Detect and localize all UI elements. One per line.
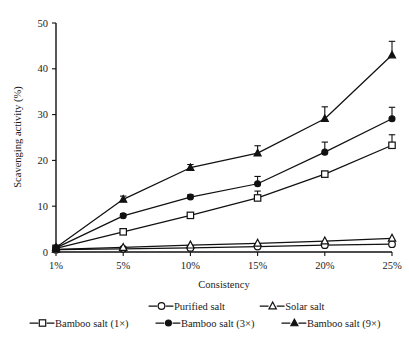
data-point-marker: [254, 149, 261, 156]
legend-label: Purified salt: [174, 301, 225, 312]
y-tick-label: 50: [38, 18, 49, 29]
y-tick-label: 30: [38, 109, 49, 120]
series-polyline: [56, 55, 392, 247]
data-point-marker: [165, 320, 171, 326]
x-tick-label: 1%: [49, 260, 63, 271]
data-point-marker: [254, 195, 260, 201]
legend-item-solar-salt[interactable]: Solar salt: [260, 301, 324, 312]
data-point-marker: [291, 319, 298, 326]
x-tick-label: 15%: [248, 260, 268, 271]
data-point-marker: [388, 234, 395, 241]
data-point-marker: [39, 320, 45, 326]
legend-item-purified-salt[interactable]: Purified salt: [149, 301, 225, 312]
series-polyline: [56, 244, 392, 249]
legend-label: Solar salt: [285, 301, 324, 312]
y-tick-label: 20: [38, 155, 49, 166]
legend-item-bamboo-salt-9[interactable]: Bamboo salt (9×): [282, 318, 381, 330]
y-tick-label: 40: [38, 63, 49, 74]
series-bamboo-salt-3: [53, 107, 395, 251]
x-axis-title: Consistency: [198, 279, 250, 290]
series-bamboo-salt-9: [52, 41, 395, 250]
series-group: [52, 41, 395, 253]
data-point-marker: [120, 213, 126, 219]
data-point-marker: [389, 241, 396, 248]
series-purified-salt: [53, 241, 396, 253]
chart-legend: Purified saltSolar saltBamboo salt (1×)B…: [30, 301, 381, 330]
x-tick-label: 20%: [315, 260, 335, 271]
data-point-marker: [389, 116, 395, 122]
x-axis: [56, 252, 392, 256]
y-tick-label: 0: [43, 247, 48, 258]
data-point-marker: [255, 181, 261, 187]
y-axis-title: Scavenging activity (%): [12, 86, 24, 188]
x-tick-label: 10%: [181, 260, 201, 271]
data-point-marker: [269, 302, 276, 309]
data-point-marker: [158, 303, 165, 310]
y-tick-label: 10: [38, 201, 49, 212]
x-tick-labels: 1%5%10%15%20%25%: [49, 260, 402, 271]
data-point-marker: [322, 171, 328, 177]
x-tick-label: 5%: [116, 260, 130, 271]
data-point-marker: [389, 142, 395, 148]
scavenging-activity-chart: 01020304050 1%5%10%15%20%25% Scavenging …: [0, 0, 409, 339]
y-tick-labels: 01020304050: [38, 18, 49, 258]
legend-label: Bamboo salt (9×): [307, 318, 381, 330]
legend-item-bamboo-salt-1[interactable]: Bamboo salt (1×): [30, 318, 129, 330]
x-tick-label: 25%: [382, 260, 402, 271]
y-axis: [52, 23, 56, 252]
legend-label: Bamboo salt (3×): [181, 318, 255, 330]
series-polyline: [56, 119, 392, 248]
data-point-marker: [187, 194, 193, 200]
legend-label: Bamboo salt (1×): [55, 318, 129, 330]
chart-canvas: 01020304050 1%5%10%15%20%25% Scavenging …: [0, 0, 409, 339]
data-point-marker: [120, 229, 126, 235]
data-point-marker: [322, 149, 328, 155]
series-bamboo-salt-1: [53, 135, 395, 252]
data-point-marker: [187, 212, 193, 218]
legend-item-bamboo-salt-3[interactable]: Bamboo salt (3×): [156, 318, 255, 330]
data-point-marker: [388, 51, 395, 58]
